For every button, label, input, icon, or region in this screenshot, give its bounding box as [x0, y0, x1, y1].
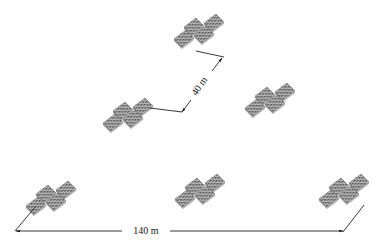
cluster-middle-right: [245, 83, 295, 118]
dim-line-upper: [212, 58, 222, 71]
cluster-bottom-left: [26, 181, 76, 216]
label-140m: 140 m: [133, 225, 159, 236]
layout-diagram: 40 m 140 m: [0, 0, 391, 251]
dimension-140m: [15, 205, 364, 232]
dim-line-lower: [182, 100, 191, 112]
cluster-top-center: [174, 14, 224, 49]
extension-line-left: [15, 206, 36, 231]
dimension-40m: [150, 51, 224, 112]
extension-line-top: [196, 51, 224, 57]
extension-line-bottom: [150, 108, 182, 112]
cluster-bottom-right: [319, 174, 369, 209]
cluster-middle-left: [103, 98, 153, 133]
cluster-bottom-center: [175, 174, 225, 209]
label-40m: 40 m: [189, 74, 210, 97]
extension-line-right: [343, 205, 364, 232]
